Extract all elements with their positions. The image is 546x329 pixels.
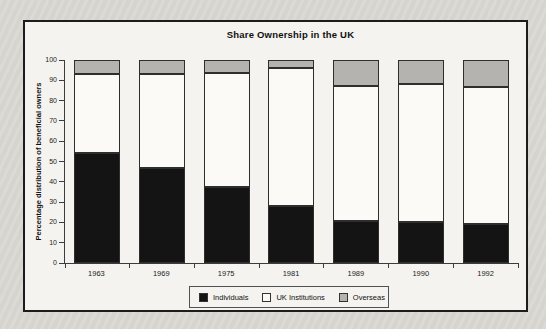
- overseas-segment: [139, 60, 185, 74]
- y-tick-10: [59, 242, 65, 243]
- y-tick-80: [59, 100, 65, 101]
- uk-institutions-segment: [398, 84, 444, 222]
- y-tick-100: [59, 60, 65, 61]
- y-tick-label-20: 20: [33, 218, 57, 226]
- stacked-bar-1963: [74, 60, 120, 263]
- individuals-segment: [333, 221, 379, 263]
- y-tick-label-100: 100: [33, 56, 57, 64]
- legend-swatch-overseas: [339, 293, 348, 302]
- legend-label-uk-institutions: UK Institutions: [276, 293, 324, 302]
- y-tick-label-70: 70: [33, 117, 57, 125]
- uk-institutions-segment: [333, 86, 379, 221]
- x-tick-2: [194, 263, 195, 268]
- legend-label-individuals: Individuals: [213, 293, 248, 302]
- bar-slot-1981: [259, 60, 324, 263]
- individuals-segment: [398, 222, 444, 263]
- legend-swatch-individuals: [199, 293, 208, 302]
- overseas-segment: [204, 60, 250, 73]
- bar-slot-1963: [65, 60, 130, 263]
- x-axis-labels: 1963196919751981198919901992: [64, 269, 518, 278]
- overseas-segment: [74, 60, 120, 74]
- uk-institutions-segment: [204, 73, 250, 187]
- legend-swatch-uk-institutions: [262, 293, 271, 302]
- bar-slot-1992: [453, 60, 518, 263]
- overseas-segment: [333, 60, 379, 86]
- overseas-segment: [268, 60, 314, 68]
- x-label-1981: 1981: [259, 269, 324, 278]
- scanned-page: Share Ownership in the UK Percentage dis…: [0, 0, 546, 329]
- y-tick-40: [59, 181, 65, 182]
- x-label-1975: 1975: [194, 269, 259, 278]
- legend-box: IndividualsUK InstitutionsOverseas: [189, 286, 389, 308]
- y-tick-label-50: 50: [33, 158, 57, 166]
- individuals-segment: [268, 206, 314, 263]
- stacked-bar-1975: [204, 60, 250, 263]
- plot-area: 0102030405060708090100: [64, 60, 518, 264]
- y-tick-30: [59, 202, 65, 203]
- x-tick-6: [453, 263, 454, 268]
- uk-institutions-segment: [74, 74, 120, 153]
- x-tick-0: [65, 263, 66, 268]
- stacked-bar-1989: [333, 60, 379, 263]
- legend-label-overseas: Overseas: [353, 293, 385, 302]
- x-label-1992: 1992: [453, 269, 518, 278]
- overseas-segment: [398, 60, 444, 84]
- stacked-bar-1992: [463, 60, 509, 263]
- overseas-segment: [463, 60, 509, 87]
- legend-item-overseas: Overseas: [339, 293, 385, 302]
- y-tick-label-60: 60: [33, 137, 57, 145]
- y-tick-60: [59, 141, 65, 142]
- y-tick-label-10: 10: [33, 239, 57, 247]
- stacked-bar-1969: [139, 60, 185, 263]
- individuals-segment: [74, 153, 120, 263]
- uk-institutions-segment: [463, 87, 509, 224]
- y-tick-50: [59, 161, 65, 162]
- y-tick-label-80: 80: [33, 97, 57, 105]
- x-tick-1: [129, 263, 130, 268]
- bar-slot-1975: [194, 60, 259, 263]
- stacked-bar-1981: [268, 60, 314, 263]
- legend-item-individuals: Individuals: [199, 293, 248, 302]
- y-tick-70: [59, 120, 65, 121]
- individuals-segment: [139, 168, 185, 263]
- x-label-1963: 1963: [64, 269, 129, 278]
- bar-slot-1969: [130, 60, 195, 263]
- individuals-segment: [463, 224, 509, 263]
- x-label-1990: 1990: [388, 269, 453, 278]
- x-tick-3: [259, 263, 260, 268]
- chart-frame: Share Ownership in the UK Percentage dis…: [23, 20, 528, 312]
- legend-item-uk-institutions: UK Institutions: [262, 293, 324, 302]
- chart-title: Share Ownership in the UK: [64, 29, 517, 40]
- y-tick-20: [59, 222, 65, 223]
- x-tick-7: [518, 263, 519, 268]
- stacked-bar-1990: [398, 60, 444, 263]
- uk-institutions-segment: [268, 68, 314, 206]
- y-tick-label-0: 0: [33, 259, 57, 267]
- x-tick-5: [388, 263, 389, 268]
- bar-slot-1989: [324, 60, 389, 263]
- x-tick-4: [323, 263, 324, 268]
- y-tick-label-40: 40: [33, 178, 57, 186]
- x-label-1969: 1969: [129, 269, 194, 278]
- y-tick-90: [59, 80, 65, 81]
- x-label-1989: 1989: [323, 269, 388, 278]
- uk-institutions-segment: [139, 74, 185, 167]
- individuals-segment: [204, 187, 250, 263]
- y-tick-label-30: 30: [33, 198, 57, 206]
- bar-slot-1990: [389, 60, 454, 263]
- y-tick-label-90: 90: [33, 76, 57, 84]
